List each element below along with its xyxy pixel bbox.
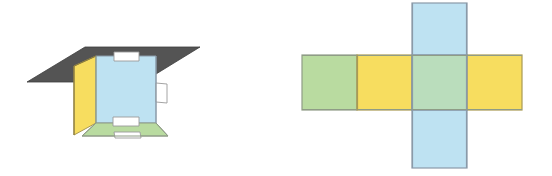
tab-right-icon — [156, 83, 167, 103]
net-cell-left-green — [302, 55, 357, 110]
net-cell-mid-yellow — [357, 55, 412, 110]
cube-face-back — [96, 56, 156, 123]
geometry-illustration — [0, 0, 552, 176]
net-cell-top-blue — [412, 3, 467, 55]
net-cell-bottom-blue — [412, 110, 467, 168]
net-cell-right-yellow — [467, 55, 522, 110]
cube-perspective-view — [27, 47, 200, 138]
figure-container: Cube and its net — [0, 0, 552, 176]
tab-bottom-outer-icon — [114, 132, 141, 138]
net-cell-center-overlap — [412, 55, 467, 110]
tab-top-icon — [114, 52, 139, 61]
cube-face-left — [74, 56, 96, 135]
tab-bottom-inner-icon — [113, 117, 139, 126]
cube-net-view — [302, 3, 522, 168]
